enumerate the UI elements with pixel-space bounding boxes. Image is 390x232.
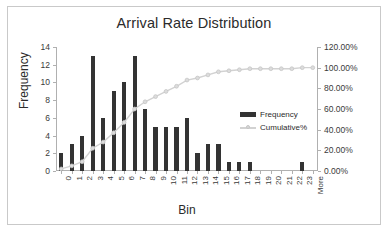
x-tick [229,171,230,174]
line-marker [248,67,252,71]
x-tick-label: 4 [106,176,115,180]
line-marker [91,146,95,150]
line-marker [258,67,262,71]
line-marker [279,67,283,71]
chart-frame: Arrival Rate Distribution Frequency Bin … [7,6,381,225]
x-tick [145,171,146,174]
left-tick-label: 6 [45,113,50,123]
line-marker [164,90,168,94]
right-tick-label: 100.00% [324,63,358,73]
x-tick [93,171,94,174]
x-tick-label: 20 [274,176,283,185]
x-tick [292,171,293,174]
x-tick [250,171,251,174]
line-marker [122,121,126,125]
x-tick-label: 22 [295,176,304,185]
line-marker [269,67,273,71]
right-tick [318,68,321,69]
x-tick [281,171,282,174]
x-tick [156,171,157,174]
line-marker [133,107,137,111]
x-tick-label: 3 [96,176,105,180]
line-marker [300,66,304,70]
chart-legend: Frequency Cumulative% [240,108,307,134]
x-tick [177,171,178,174]
x-tick-label: 11 [180,176,189,184]
x-tick [197,171,198,174]
x-tick [218,171,219,174]
right-tick-label: 20.00% [324,145,353,155]
line-marker [154,95,158,99]
legend-line-swatch-icon [240,125,256,130]
x-tick-label: 10 [169,176,178,185]
right-tick [318,109,321,110]
x-tick [103,171,104,174]
right-tick-label: 120.00% [324,42,358,52]
right-tick [318,150,321,151]
x-tick [187,171,188,174]
x-tick-label: 15 [222,176,231,185]
line-marker [290,67,294,71]
x-tick [302,171,303,174]
line-marker [101,140,105,144]
legend-item-frequency[interactable]: Frequency [240,108,307,121]
left-tick [53,171,56,172]
x-tick-label: 9 [159,176,168,180]
line-marker [185,78,189,82]
line-marker [112,131,116,135]
line-marker [217,70,221,74]
x-tick [208,171,209,174]
x-tick-label: 21 [285,176,294,185]
legend-label-frequency: Frequency [260,110,298,119]
left-tick-label: 4 [45,131,50,141]
line-marker [311,66,315,70]
x-tick [114,171,115,174]
left-tick-label: 14 [41,42,50,52]
legend-label-cumulative: Cumulative% [260,123,307,132]
x-tick [135,171,136,174]
right-tick [318,171,321,172]
x-tick-label: 6 [127,176,136,180]
x-tick [271,171,272,174]
x-tick-label: 12 [190,176,199,185]
line-marker [196,76,200,80]
right-tick-label: 80.00% [324,83,353,93]
left-tick-label: 8 [45,95,50,105]
x-tick-label: 23 [305,176,314,185]
right-tick [318,130,321,131]
x-tick-label: 18 [253,176,262,185]
x-tick [239,171,240,174]
line-marker [143,100,147,104]
x-tick-label: 16 [232,176,241,185]
line-marker [175,84,179,88]
x-tick [82,171,83,174]
left-tick-label: 12 [41,60,50,70]
right-tick [318,47,321,48]
x-tick-label: 1 [75,176,84,180]
line-marker [227,69,231,73]
line-marker [70,164,74,168]
line-marker [206,73,210,77]
right-tick-label: 40.00% [324,125,353,135]
x-tick-label: 5 [117,176,126,180]
legend-bar-swatch-icon [240,112,256,117]
x-tick-label: 13 [201,176,210,185]
x-tick-label: 17 [243,176,252,185]
x-tick [260,171,261,174]
x-tick [72,171,73,174]
right-tick-label: 0.00% [324,166,348,176]
x-tick-label: 0 [64,176,73,180]
line-marker [80,160,84,164]
chart-title: Arrival Rate Distribution [8,15,380,31]
x-tick [313,171,314,174]
x-tick-label: 8 [148,176,157,180]
x-tick [166,171,167,174]
x-axis-title: Bin [56,203,318,217]
legend-item-cumulative[interactable]: Cumulative% [240,121,307,134]
x-tick-label: 7 [138,176,147,180]
left-tick-label: 2 [45,148,50,158]
x-tick-label: 14 [211,176,220,185]
x-tick-label: 19 [264,176,273,185]
x-tick [61,171,62,174]
x-tick-label: 2 [85,176,94,180]
